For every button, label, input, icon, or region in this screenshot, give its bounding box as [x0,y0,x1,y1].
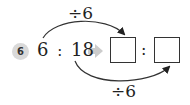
top-operation-label: ÷6 [68,4,93,22]
ratio-second-term: 18 [71,39,94,60]
bottom-operation-label: ÷6 [111,82,136,100]
answer-box-second[interactable] [154,37,180,63]
given-ratio: 6 : 18 [37,39,94,62]
ratio-first-term: 6 [37,39,48,60]
top-arc-arrow [43,21,124,38]
bottom-arc-arrow [75,61,169,81]
answer-ratio-separator: : [141,39,146,61]
ratio-separator: : [57,42,62,60]
problem-number-badge: 6 [12,43,29,60]
ratio-diagram: 6 6 : 18 : ÷6 ÷6 [0,0,190,105]
answer-box-first[interactable] [110,37,136,63]
